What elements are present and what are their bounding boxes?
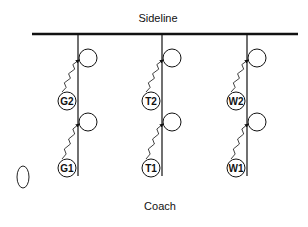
run-path-arrow <box>231 124 248 159</box>
coach-label: Coach <box>144 200 176 212</box>
run-path-arrow <box>146 60 163 92</box>
run-path-arrow <box>146 124 163 159</box>
target-circle <box>248 113 266 131</box>
player-label: W1 <box>229 163 244 174</box>
player-label: W2 <box>229 96 244 107</box>
player-label: G1 <box>60 163 74 174</box>
sideline-label: Sideline <box>138 12 177 24</box>
drill-diagram: Sideline G2G1T2T1W2W1 Coach <box>0 0 308 227</box>
player-label: T2 <box>145 96 157 107</box>
target-circle <box>79 49 97 67</box>
target-circle <box>248 49 266 67</box>
run-path-arrow <box>231 60 248 92</box>
run-path-arrow <box>62 124 79 159</box>
target-circle <box>163 113 181 131</box>
run-path-arrow <box>62 60 79 92</box>
target-circle <box>79 113 97 131</box>
player-label: T1 <box>145 163 157 174</box>
target-circle <box>163 49 181 67</box>
player-label: G2 <box>60 96 74 107</box>
ball-icon <box>17 166 29 188</box>
